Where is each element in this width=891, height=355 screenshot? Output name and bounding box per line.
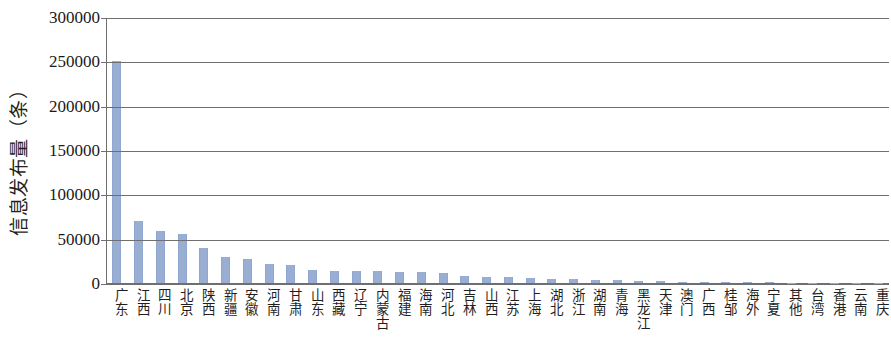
bar: [547, 279, 556, 283]
y-axis-tick-labels: 050000100000150000200000250000300000: [30, 0, 106, 300]
x-axis-tick-label: 广西: [693, 288, 715, 316]
bar: [330, 271, 339, 283]
gridline: [106, 195, 889, 196]
bar: [874, 283, 883, 284]
bar-series: [106, 17, 889, 283]
x-axis-tick-label: 上海: [519, 288, 541, 316]
bar: [743, 282, 752, 283]
bar: [178, 234, 187, 283]
x-axis-tick-label: 四川: [150, 288, 172, 316]
x-axis-tick-label: 桂邹: [715, 288, 737, 316]
x-axis-tick-label: 黑龙江: [628, 288, 650, 330]
y-axis-tick-label: 300000: [49, 8, 100, 28]
bar: [569, 279, 578, 283]
x-axis-tick-label: 湖南: [585, 288, 607, 316]
plot-area: [106, 18, 889, 284]
y-axis-title: 信息发布量（条）: [2, 22, 32, 292]
y-axis-tick-mark: [101, 18, 106, 19]
y-axis-tick-label: 250000: [49, 52, 100, 72]
y-axis-tick-mark: [101, 284, 106, 285]
bar: [460, 276, 469, 283]
bar: [808, 283, 817, 284]
bar: [656, 281, 665, 283]
bar: [373, 271, 382, 283]
bar: [221, 257, 230, 283]
bar: [787, 283, 796, 284]
gridline: [106, 151, 889, 152]
gridline: [106, 240, 889, 241]
x-axis-tick-label: 新疆: [215, 288, 237, 316]
bar: [308, 270, 317, 283]
x-axis-tick-label: 西藏: [324, 288, 346, 316]
x-axis-tick-label: 台湾: [802, 288, 824, 316]
x-axis-tick-label: 辽宁: [345, 288, 367, 316]
bar: [613, 280, 622, 283]
bar: [765, 282, 774, 283]
bar: [830, 283, 839, 284]
y-axis-tick-mark: [101, 151, 106, 152]
bar: [112, 61, 121, 283]
gridline: [106, 107, 889, 108]
bar: [286, 265, 295, 283]
x-axis-tick-label: 其他: [780, 288, 802, 316]
gridline: [106, 62, 889, 63]
bar: [439, 273, 448, 283]
bar: [352, 271, 361, 283]
y-axis-tick-mark: [101, 240, 106, 241]
x-axis-tick-label: 宁夏: [759, 288, 781, 316]
y-axis-tick-mark: [101, 62, 106, 63]
bar: [482, 277, 491, 283]
y-axis-tick-label: 150000: [49, 141, 100, 161]
x-axis-tick-label: 山西: [476, 288, 498, 316]
x-axis-tick-label: 河南: [258, 288, 280, 316]
bar: [721, 282, 730, 283]
bar: [700, 282, 709, 283]
x-axis-tick-label: 河北: [432, 288, 454, 316]
bar: [852, 283, 861, 284]
x-axis-tick-label: 北京: [171, 288, 193, 316]
x-axis-tick-label: 天津: [650, 288, 672, 316]
x-axis-tick-label: 内蒙古: [367, 288, 389, 330]
bar: [395, 272, 404, 283]
bar: [591, 280, 600, 283]
x-axis-tick-label: 青海: [606, 288, 628, 316]
bar: [678, 282, 687, 283]
gridline: [106, 18, 889, 19]
x-axis-tick-label: 甘肃: [280, 288, 302, 316]
bar: [199, 248, 208, 283]
x-axis-tick-label: 重庆: [867, 288, 889, 316]
bar: [526, 278, 535, 283]
x-axis-tick-label: 广东: [106, 288, 128, 316]
y-axis-tick-label: 100000: [49, 185, 100, 205]
x-axis-tick-label: 澳门: [672, 288, 694, 316]
x-axis-tick-label: 山东: [302, 288, 324, 316]
y-axis-title-text: 信息发布量（条）: [4, 79, 31, 235]
x-axis-tick-label: 江西: [128, 288, 150, 316]
x-axis-tick-label: 海外: [737, 288, 759, 316]
y-axis-tick-label: 0: [92, 274, 101, 294]
x-axis-tick-label: 湖北: [541, 288, 563, 316]
y-axis-tick-label: 50000: [58, 230, 101, 250]
y-axis-tick-label: 200000: [49, 97, 100, 117]
x-axis-tick-label: 安徽: [237, 288, 259, 316]
y-axis-tick-mark: [101, 107, 106, 108]
x-axis-tick-label: 福建: [389, 288, 411, 316]
bar: [265, 264, 274, 283]
bar: [504, 277, 513, 283]
bar-chart: 信息发布量（条） 0500001000001500002000002500003…: [0, 0, 891, 355]
x-axis-tick-label: 陕西: [193, 288, 215, 316]
bar: [243, 259, 252, 283]
y-axis-tick-mark: [101, 195, 106, 196]
x-axis-tick-label: 吉林: [454, 288, 476, 316]
bar: [634, 281, 643, 283]
bar: [156, 231, 165, 283]
gridline: [106, 284, 889, 285]
x-axis-tick-label: 香港: [824, 288, 846, 316]
x-axis-tick-label: 浙江: [563, 288, 585, 316]
bar: [134, 221, 143, 283]
bar: [417, 272, 426, 283]
x-axis-tick-label: 江苏: [498, 288, 520, 316]
x-axis-tick-label: 云南: [846, 288, 868, 316]
x-axis-tick-label: 海南: [411, 288, 433, 316]
x-axis-tick-labels: 广东江西四川北京陕西新疆安徽河南甘肃山东西藏辽宁内蒙古福建海南河北吉林山西江苏上…: [106, 288, 889, 355]
